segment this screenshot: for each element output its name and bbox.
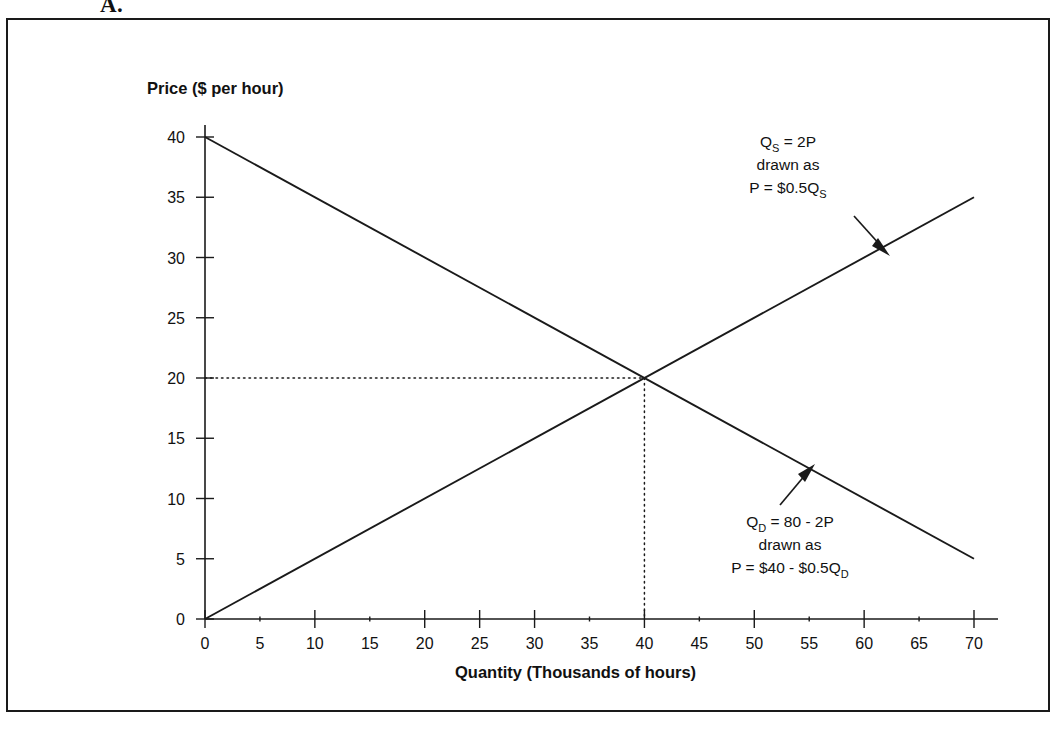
y-tick-label: 35 <box>167 189 185 206</box>
x-tick-label: 50 <box>745 635 763 652</box>
x-tick-label: 55 <box>800 635 818 652</box>
x-tick-label: 15 <box>361 635 379 652</box>
y-tick-label: 5 <box>176 551 185 568</box>
demand-eq-sub: D <box>758 522 766 534</box>
x-tick-label: 30 <box>526 635 544 652</box>
supply-eq-post: = 2P <box>779 133 816 150</box>
x-axis-ticks: 0510152025303540455055606570 <box>201 610 983 652</box>
supply-annotation-line-2: drawn as <box>757 156 820 173</box>
demand-annotation-line-3: P = $40 - $0.5QD <box>731 559 849 580</box>
y-tick-label: 15 <box>167 430 185 447</box>
supply-demand-chart: Price ($ per hour) Quantity (Thousands o… <box>8 20 1048 710</box>
demand-eq-pre: Q <box>746 513 758 530</box>
demand-drawn-pre: drawn as <box>759 536 822 553</box>
supply-arrow-head <box>872 238 890 256</box>
x-tick-label: 5 <box>255 635 264 652</box>
x-tick-label: 45 <box>690 635 708 652</box>
demand-annotation-line-1: QD = 80 - 2P <box>746 513 834 534</box>
x-tick-label: 0 <box>201 635 210 652</box>
supply-drawn-pre: drawn as <box>757 156 820 173</box>
supply-form-pre: P = $0.5Q <box>749 179 819 196</box>
supply-annotation: QS = 2P drawn as P = $0.5QS <box>749 133 890 256</box>
demand-form-pre: P = $40 - $0.5Q <box>731 559 841 576</box>
x-tick-label: 25 <box>471 635 489 652</box>
demand-form-sub: D <box>841 568 849 580</box>
demand-annotation-line-2: drawn as <box>759 536 822 553</box>
y-tick-label: 30 <box>167 250 185 267</box>
supply-form-sub: S <box>819 188 826 200</box>
y-tick-label: 20 <box>167 370 185 387</box>
x-tick-label: 40 <box>636 635 654 652</box>
supply-curve <box>205 197 974 619</box>
x-tick-label: 65 <box>910 635 928 652</box>
supply-annotation-line-1: QS = 2P <box>760 133 816 154</box>
y-tick-label: 25 <box>167 310 185 327</box>
x-axis-title: Quantity (Thousands of hours) <box>455 663 696 681</box>
figure-root: A. Price ($ per hour) Quantity (Thousand… <box>0 0 1062 737</box>
y-tick-label: 0 <box>176 611 185 628</box>
figure-frame: Price ($ per hour) Quantity (Thousands o… <box>6 18 1050 712</box>
supply-eq-pre: Q <box>760 133 772 150</box>
y-tick-label: 40 <box>167 129 185 146</box>
supply-eq-sub: S <box>772 142 779 154</box>
x-tick-label: 60 <box>855 635 873 652</box>
x-tick-label: 35 <box>581 635 599 652</box>
y-tick-label: 10 <box>167 491 185 508</box>
demand-eq-post: = 80 - 2P <box>766 513 834 530</box>
x-tick-label: 10 <box>306 635 324 652</box>
y-axis-title: Price ($ per hour) <box>147 79 284 97</box>
supply-annotation-line-3: P = $0.5QS <box>749 179 826 200</box>
part-label: A. <box>100 0 123 18</box>
x-tick-label: 70 <box>965 635 983 652</box>
x-tick-label: 20 <box>416 635 434 652</box>
demand-curve <box>205 137 974 559</box>
